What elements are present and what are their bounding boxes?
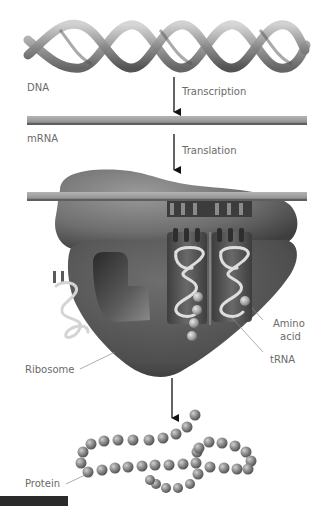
- mrna-in-ribosome: [27, 192, 307, 201]
- label-amino-acid-line1: Amino: [273, 318, 305, 330]
- mrna-strand: [27, 116, 307, 125]
- label-dna: DNA: [27, 82, 49, 94]
- page-edge-bar: [0, 496, 68, 506]
- label-ribosome: Ribosome: [25, 364, 74, 376]
- protein-chain: [76, 410, 257, 494]
- label-trna: tRNA: [270, 354, 295, 366]
- dna-helix: [28, 24, 306, 68]
- label-translation: Translation: [182, 145, 237, 157]
- label-mrna: mRNA: [27, 133, 58, 145]
- label-amino-acid-line2: acid: [280, 331, 301, 343]
- label-transcription: Transcription: [182, 86, 246, 98]
- protein-synthesis-diagram: DNA Transcription mRNA Translation Ribos…: [0, 0, 319, 506]
- label-protein: Protein: [25, 478, 60, 490]
